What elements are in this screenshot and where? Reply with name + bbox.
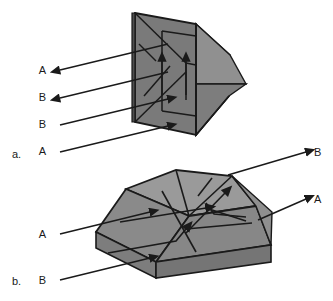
diagram-canvas: A B B A a.: [0, 0, 333, 301]
ray-label-a-2: B: [39, 91, 46, 103]
ray-label-a-3: B: [39, 118, 46, 130]
panel-marker-a: a.: [12, 148, 21, 160]
ray-label-a-4: A: [39, 145, 47, 157]
prism-ray-diagram: A B B A a.: [0, 0, 333, 301]
ray-label-b-out-1: B: [314, 146, 321, 158]
ray-label-b-in-2: B: [39, 274, 46, 286]
ray-label-b-in-1: A: [39, 228, 47, 240]
ray-label-a-1: A: [39, 64, 47, 76]
facet-a-front-edge: [132, 13, 135, 122]
ray-label-b-out-2: A: [314, 193, 322, 205]
panel-marker-b: b.: [12, 275, 21, 287]
